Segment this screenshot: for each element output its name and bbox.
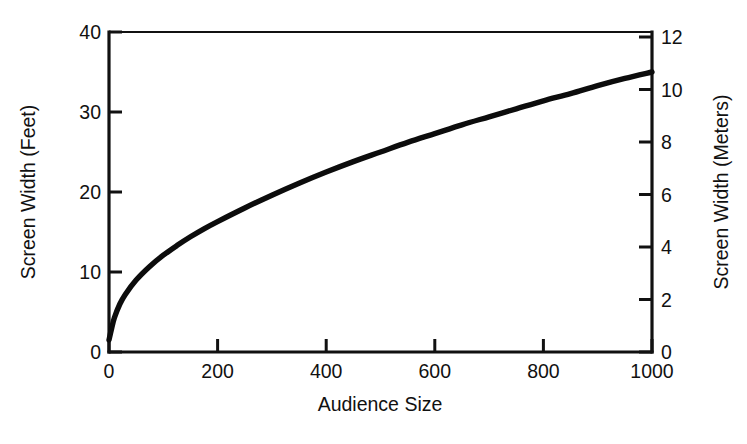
left-ticklabel-0: 0	[90, 341, 101, 363]
left-ticklabel-40: 40	[79, 21, 101, 43]
y2-axis-title: Screen Width (Meters)	[710, 94, 732, 289]
right-ticklabel-10: 10	[661, 79, 683, 101]
y-axis-title: Screen Width (Feet)	[17, 105, 39, 279]
right-ticklabel-4: 4	[661, 236, 672, 258]
chart-svg: 40 30 20 10 0 0 2 4 6 8 10 12	[0, 0, 747, 444]
chart-figure: 40 30 20 10 0 0 2 4 6 8 10 12	[0, 0, 747, 444]
bottom-ticklabel-1000: 1000	[630, 360, 674, 382]
bottom-ticklabel-400: 400	[310, 360, 343, 382]
left-ticklabel-30: 30	[79, 101, 101, 123]
right-ticklabel-12: 12	[661, 26, 683, 48]
right-ticklabel-2: 2	[661, 289, 672, 311]
bottom-ticklabel-800: 800	[527, 360, 560, 382]
right-ticklabel-6: 6	[661, 184, 672, 206]
bottom-ticklabel-200: 200	[201, 360, 234, 382]
left-ticklabel-20: 20	[79, 181, 101, 203]
bottom-ticklabel-0: 0	[104, 360, 115, 382]
right-ticklabel-8: 8	[661, 131, 672, 153]
left-ticklabel-10: 10	[79, 261, 101, 283]
x-axis-title: Audience Size	[318, 393, 443, 415]
bottom-ticklabel-600: 600	[419, 360, 452, 382]
